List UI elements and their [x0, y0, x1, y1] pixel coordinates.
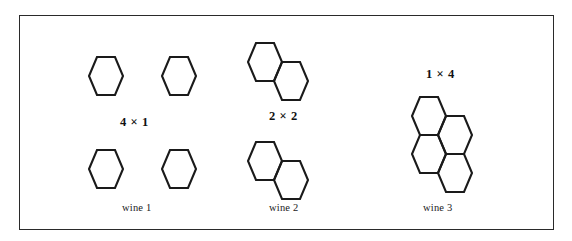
hexagon-cell	[88, 149, 124, 189]
caption-wine-2: wine 2	[269, 202, 299, 213]
panel-wine-2: 2 × 2 wine 2	[220, 16, 365, 229]
caption-wine-3: wine 3	[423, 202, 453, 213]
hexagon-cell	[88, 56, 124, 96]
fused-hexagon-pair	[247, 42, 317, 102]
multiplier-label-wine-1: 4 × 1	[120, 115, 149, 130]
panel-wine-1: 4 × 1 wine 1	[20, 16, 220, 229]
multiplier-label-wine-3: 1 × 4	[426, 67, 455, 82]
figure-border-frame: 4 × 1 wine 1 2 × 2 wine 2	[19, 15, 554, 230]
figure-root: 4 × 1 wine 1 2 × 2 wine 2	[0, 0, 572, 241]
hexagon-cell	[161, 56, 197, 96]
hexagon-cell	[161, 149, 197, 189]
fused-hexagon-pair	[247, 141, 317, 201]
panel-wine-3: 1 × 4 wine 3	[365, 16, 555, 229]
caption-wine-1: wine 1	[122, 202, 152, 213]
multiplier-label-wine-2: 2 × 2	[269, 109, 298, 124]
fused-hexagon-cluster	[411, 96, 485, 178]
